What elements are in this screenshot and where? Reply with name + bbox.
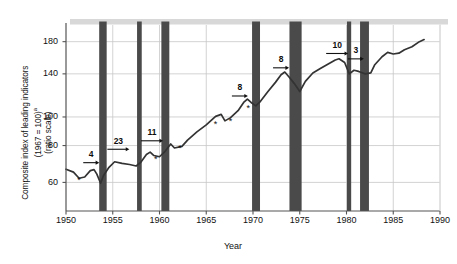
x-axis-title: Year [0,241,457,251]
x-tick-label-1985: 1985 [373,216,413,225]
lead-time-label-4: 8 [271,55,291,64]
x-tick-label-1955: 1955 [93,216,133,225]
y-axis-title-line3: (ratio scale) [43,38,53,228]
x-tick-label-1990: 1990 [420,216,457,225]
lead-time-label-6: 3 [346,46,366,55]
peak-marker-2: * [178,143,182,153]
y-tick-label-100: 100 [26,112,58,121]
lead-time-label-3: 8 [230,83,250,92]
peak-marker-1: * [154,154,158,164]
x-tick-label-1970: 1970 [233,216,273,225]
x-tick-label-1960: 1960 [140,216,180,225]
lead-time-label-1: 23 [108,137,128,146]
y-tick-label-60: 60 [26,178,58,187]
recession-bar-1957-58 [137,22,142,212]
recession-bar-1969-70 [252,22,260,212]
x-tick-label-1950: 1950 [46,216,86,225]
lead-time-label-5: 10 [327,41,347,50]
chart-figure: Composite index of leading indicators (1… [0,0,457,264]
y-tick-label-180: 180 [26,37,58,46]
y-axis-title-line1: Composite index of leading indicators [20,38,30,228]
peak-marker-4: * [229,116,233,126]
lead-time-label-0: 4 [81,150,101,159]
x-tick-label-1975: 1975 [280,216,320,225]
lead-time-label-2: 11 [142,128,162,137]
x-axis-title-text: Year [224,241,242,251]
recession-bar-1960-61 [161,22,169,212]
y-tick-label-140: 140 [26,69,58,78]
y-axis-title-superscript: a [33,108,39,111]
peak-marker-3: * [214,119,218,129]
y-tick-label-80: 80 [26,141,58,150]
peak-marker-0: * [77,175,81,185]
x-tick-label-1965: 1965 [186,216,226,225]
y-axis-title-line2: (1967 = 100)a [31,38,44,228]
y-axis-title: Composite index of leading indicators (1… [20,38,53,228]
peak-marker-5: * [247,103,251,113]
recession-bar-1973-75 [289,22,301,212]
x-tick-label-1980: 1980 [327,216,367,225]
